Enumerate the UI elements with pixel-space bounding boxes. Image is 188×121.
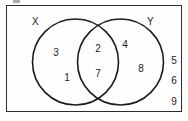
element-right-only-2: 8	[136, 64, 146, 74]
element-outside-2: 6	[169, 76, 179, 86]
element-outside-1: 5	[169, 56, 179, 66]
set-label-y: Y	[147, 17, 154, 27]
element-left-only-2: 1	[62, 73, 72, 83]
set-label-x: X	[32, 17, 39, 27]
element-intersection-2: 7	[93, 69, 103, 79]
element-right-only-1: 4	[120, 40, 130, 50]
set-circle-y	[78, 19, 164, 105]
venn-diagram-figure: X Y 3 1 2 7 4 8 5 6 9	[0, 0, 188, 121]
element-outside-3: 9	[169, 97, 179, 107]
element-intersection-1: 2	[93, 44, 103, 54]
set-circle-x	[33, 19, 119, 105]
venn-circles	[0, 0, 188, 121]
element-left-only-1: 3	[51, 48, 61, 58]
